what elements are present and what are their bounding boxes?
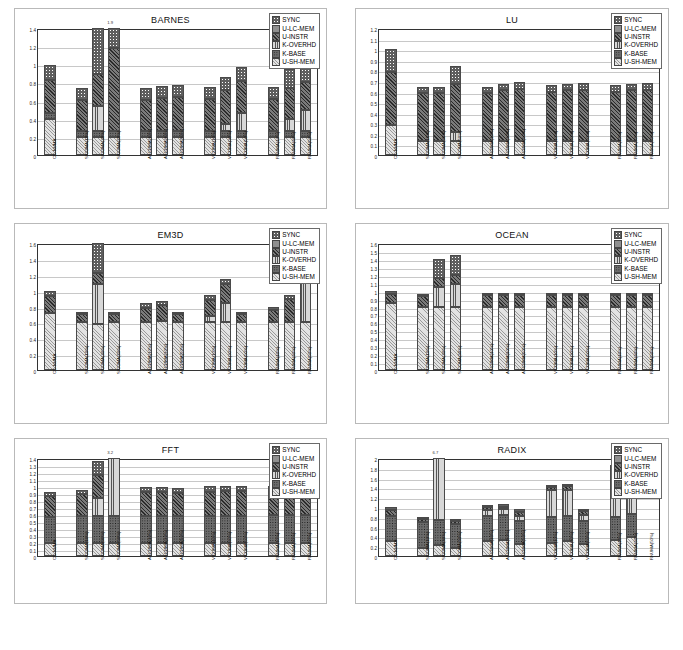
- y-axis-tick-label: 1: [374, 507, 377, 512]
- legend-swatch-kov-icon: [614, 256, 622, 264]
- y-axis-tick-label: 0.6: [371, 526, 377, 531]
- y-axis-tick-label: 0.2: [30, 136, 36, 141]
- bar-segment-sync: [204, 486, 215, 492]
- y-axis-tick-label: 1.4: [30, 28, 36, 33]
- bar-segment-uin: [92, 273, 103, 284]
- x-axis-tick-label: RNUMA(10%): [617, 347, 622, 374]
- legend-item: SYNC: [272, 16, 316, 24]
- legend-item: SYNC: [272, 446, 316, 454]
- bar-segment-uin: [220, 90, 231, 124]
- legend-swatch-sync-icon: [272, 16, 280, 24]
- x-axis-tick-label: ASCOMA(10%): [489, 344, 494, 374]
- x-axis-tick-label: ASCOMA(10%): [489, 129, 494, 159]
- x-axis-tick-label: RNUMA(10%): [617, 533, 622, 560]
- x-axis-tick-label: VICUMA(10%): [553, 532, 558, 560]
- bar-segment-sync: [498, 504, 510, 506]
- legend-label: SYNC: [624, 446, 642, 454]
- legend-swatch-uin-icon: [614, 248, 622, 256]
- bar-segment-sync: [546, 485, 558, 487]
- y-axis-tick-label: 1.4: [371, 487, 377, 492]
- bar-segment-sync: [450, 66, 462, 84]
- bar-segment-uin: [268, 99, 279, 132]
- bar-segment-sync: [482, 293, 494, 295]
- bar-segment-uin: [578, 295, 590, 306]
- y-axis-tick-label: 0.6: [30, 100, 36, 105]
- bar-segment-sync: [578, 293, 590, 295]
- y-axis-tick-label: 0.6: [371, 91, 377, 96]
- bar-segment-uin: [284, 299, 295, 323]
- legend-label: U-INSTR: [624, 248, 650, 256]
- y-axis-tick-label: 1.2: [30, 472, 36, 477]
- legend-item: U-SH-MEM: [272, 273, 316, 281]
- y-axis-tick-label: 1.2: [371, 497, 377, 502]
- bar-segment-uin: [172, 314, 183, 323]
- legend-item: SYNC: [614, 16, 658, 24]
- bar-segment-uin: [92, 475, 103, 498]
- bar-segment-uin: [156, 492, 167, 516]
- bar-segment-sync: [236, 312, 247, 314]
- bar-segment-sync: [204, 295, 215, 300]
- legend-label: K-OVERHD: [624, 256, 658, 264]
- y-axis-tick-label: 1: [33, 64, 36, 69]
- y-axis-tick-label: 1.4: [30, 458, 36, 463]
- legend-swatch-kov-icon: [272, 41, 280, 49]
- y-axis-tick-label: 1.3: [371, 266, 377, 271]
- overflow-value-annotation: 3.2: [107, 450, 113, 455]
- bar-segment-sync: [385, 49, 397, 72]
- x-axis-tick-label: VICUMA(10%): [553, 131, 558, 159]
- bar-segment-sync: [642, 83, 654, 90]
- bar-segment-sync: [44, 492, 55, 496]
- x-axis-tick-label: CC-NUMA: [393, 540, 398, 560]
- x-axis-tick-label: RNUMA(30%): [291, 347, 296, 374]
- x-axis-tick-label: ASCOMA(30%): [505, 129, 510, 159]
- y-axis-tick-label: 0.5: [371, 330, 377, 335]
- y-axis-tick-label: 0.3: [371, 346, 377, 351]
- legend-label: SYNC: [282, 446, 300, 454]
- bar-segment-uin: [482, 295, 494, 306]
- y-axis-tick-label: 0: [374, 556, 377, 561]
- legend-item: U-LC-MEM: [272, 454, 316, 462]
- y-axis-tick-label: 0: [33, 556, 36, 561]
- x-axis-tick-label: VICUMA(50%): [585, 346, 590, 374]
- panel-cell-em3d: EM3DSYNCU-LC-MEMU-INSTRK-OVERHDK-BASEU-S…: [0, 215, 341, 430]
- legend-item: U-LC-MEM: [614, 454, 658, 462]
- bar-segment-sync: [562, 84, 574, 90]
- x-axis-tick-label: SICOMA(30%): [441, 532, 446, 560]
- bar-segment-sync: [92, 243, 103, 273]
- bar-segment-sync: [44, 291, 55, 297]
- x-axis-tick-label: SICOMA(50%): [457, 131, 462, 159]
- legend-label: U-INSTR: [282, 463, 308, 471]
- bar-segment-sync: [562, 293, 574, 295]
- bar-segment-uin: [236, 314, 247, 323]
- bar-segment-sync: [546, 293, 558, 295]
- y-axis-tick-label: 1.5: [371, 250, 377, 255]
- bar-segment-sync: [642, 293, 654, 295]
- x-axis-tick-label: VICUMA(10%): [211, 131, 216, 159]
- legend-swatch-ush-icon: [614, 58, 622, 66]
- y-axis-tick-label: 0.2: [30, 542, 36, 547]
- bar-segment-uin: [108, 48, 119, 131]
- bar-segment-uin: [562, 295, 574, 306]
- legend-swatch-ulc-icon: [614, 25, 622, 33]
- bar-segment-kba: [385, 516, 397, 541]
- legend-label: K-OVERHD: [282, 256, 316, 264]
- x-axis-tick-label: ASCOMA(30%): [163, 530, 168, 560]
- y-axis-tick-label: 1.6: [371, 243, 377, 248]
- bar-segment-uin: [140, 100, 151, 132]
- bar-segment-uin: [204, 99, 215, 132]
- legend-label: K-BASE: [282, 50, 305, 58]
- bar-segment-sync: [108, 28, 119, 48]
- bar-segment-uin: [482, 507, 494, 510]
- chart-panel: FFTSYNCU-LC-MEMU-INSTRK-OVERHDK-BASEU-SH…: [14, 438, 327, 604]
- x-axis-tick-label: RNUMA(30%): [633, 533, 638, 560]
- legend-item: U-SH-MEM: [272, 488, 316, 496]
- x-axis-tick-label: VICUMA(10%): [553, 346, 558, 374]
- legend-item: K-OVERHD: [614, 256, 658, 264]
- bar-segment-uin: [385, 72, 397, 125]
- x-axis-tick-label: SICOMA(10%): [84, 131, 89, 159]
- y-axis-tick-label: 0.6: [30, 322, 36, 327]
- legend-item: U-LC-MEM: [614, 239, 658, 247]
- legend-swatch-sync-icon: [272, 446, 280, 454]
- legend-item: U-LC-MEM: [614, 24, 658, 32]
- bar-segment-kov: [433, 287, 445, 307]
